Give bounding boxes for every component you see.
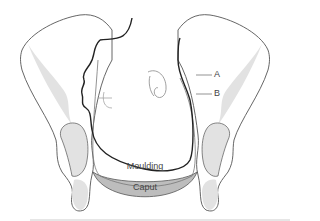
left-pelvic-bone xyxy=(21,15,113,211)
label-moulding: Moulding xyxy=(127,162,164,171)
label-a: A xyxy=(214,70,220,79)
bottom-divider xyxy=(30,219,290,221)
label-caput: Caput xyxy=(133,183,157,192)
label-b: B xyxy=(214,89,220,98)
fetal-ear xyxy=(148,71,166,98)
fetal-hand xyxy=(98,92,112,108)
